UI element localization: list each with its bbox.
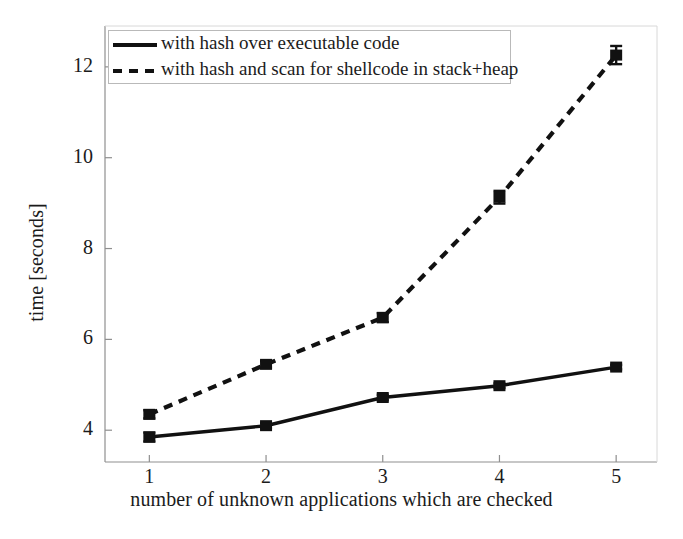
data-point-marker	[610, 50, 622, 61]
legend-line-sample-solid	[113, 43, 157, 47]
data-point-marker	[377, 312, 389, 323]
series-solid	[143, 362, 622, 443]
series-dashed	[143, 46, 622, 420]
legend-item-solid: with hash over executable code	[109, 31, 510, 58]
legend-label-solid: with hash over executable code	[161, 32, 399, 54]
data-point-marker	[143, 409, 155, 420]
y-tick-marks	[105, 67, 112, 430]
x-tick-label: 4	[479, 465, 519, 488]
series-line	[149, 55, 616, 414]
legend-line-sample-dashed	[113, 69, 157, 73]
y-axis-label-container: time [seconds]	[0, 0, 40, 470]
x-axis-label: number of unknown applications which are…	[0, 488, 683, 511]
y-tick-label: 6	[53, 326, 93, 349]
x-tick-marks	[149, 455, 616, 462]
y-tick-label: 8	[53, 236, 93, 259]
data-point-marker	[377, 392, 389, 403]
data-point-marker	[143, 432, 155, 443]
x-tick-label: 5	[596, 465, 636, 488]
data-point-marker	[493, 380, 505, 391]
x-tick-label: 2	[246, 465, 286, 488]
data-series-layer	[143, 46, 622, 443]
y-axis-label: time [seconds]	[25, 143, 48, 383]
x-tick-label: 3	[363, 465, 403, 488]
data-point-marker	[260, 420, 272, 431]
y-tick-label: 4	[53, 417, 93, 440]
data-point-marker	[493, 192, 505, 203]
chart-legend: with hash over executable code with hash…	[108, 30, 511, 84]
legend-label-dashed: with hash and scan for shellcode in stac…	[161, 58, 518, 80]
x-tick-label: 1	[129, 465, 169, 488]
chart-figure: time [seconds] number of unknown applica…	[0, 0, 683, 539]
data-point-marker	[260, 359, 272, 370]
y-tick-label: 10	[53, 145, 93, 168]
legend-item-dashed: with hash and scan for shellcode in stac…	[109, 57, 510, 84]
data-point-marker	[610, 362, 622, 373]
y-tick-label: 12	[53, 54, 93, 77]
